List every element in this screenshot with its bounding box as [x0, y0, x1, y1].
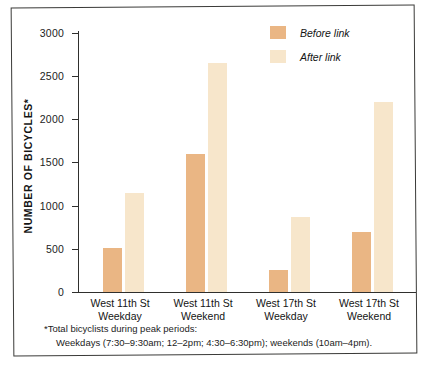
category-label-group-3: West 17th St Weekday — [240, 297, 332, 323]
y-tick-mark-2500 — [72, 76, 79, 77]
legend-label-after: After link — [300, 51, 341, 63]
chart-footnote: *Total bicyclists during peak periods: W… — [44, 322, 372, 349]
category-label-line1: West 11th St — [74, 297, 166, 310]
bar-before-group-4 — [352, 232, 371, 292]
y-tick-label-1500: 1500 — [40, 156, 64, 168]
y-tick-label-2500: 2500 — [40, 70, 64, 82]
y-tick-mark-3000 — [72, 33, 79, 34]
category-label-group-2: West 11th St Weekend — [157, 297, 249, 323]
bar-after-group-3 — [291, 217, 310, 292]
y-tick-mark-0 — [72, 292, 79, 293]
bar-before-group-3 — [269, 270, 288, 292]
y-tick-label-0: 0 — [58, 286, 64, 298]
y-axis-title: NUMBER OF BICYCLES* — [22, 86, 34, 246]
legend-item-after: After link — [270, 50, 350, 63]
y-tick-mark-1000 — [72, 206, 79, 207]
category-label-line1: West 17th St — [323, 297, 415, 310]
plot-area: NUMBER OF BICYCLES* 3000 2500 2000 1500 … — [0, 0, 427, 366]
y-tick-label-3000: 3000 — [40, 27, 64, 39]
bar-after-group-1 — [125, 193, 144, 292]
legend-swatch-before-icon — [270, 26, 286, 39]
y-tick-label-1000: 1000 — [40, 200, 64, 212]
x-axis-line — [78, 292, 416, 293]
category-label-group-4: West 17th St Weekend — [323, 297, 415, 323]
bicycle-counts-chart-figure: NUMBER OF BICYCLES* 3000 2500 2000 1500 … — [0, 0, 427, 366]
legend-swatch-after-icon — [270, 50, 286, 63]
footnote-line-2: Weekdays (7:30–9:30am; 12–2pm; 4:30–6:30… — [44, 336, 372, 350]
y-tick-label-2000: 2000 — [40, 113, 64, 125]
category-label-line1: West 17th St — [240, 297, 332, 310]
footnote-line-1: *Total bicyclists during peak periods: — [44, 322, 372, 336]
bar-after-group-4 — [374, 102, 393, 292]
legend-item-before: Before link — [270, 26, 350, 39]
y-tick-label-500: 500 — [46, 243, 64, 255]
y-tick-mark-2000 — [72, 119, 79, 120]
bar-before-group-1 — [103, 248, 122, 292]
y-tick-mark-1500 — [72, 162, 79, 163]
category-label-line1: West 11th St — [157, 297, 249, 310]
bar-before-group-2 — [186, 154, 205, 292]
y-tick-mark-500 — [72, 249, 79, 250]
bar-after-group-2 — [208, 63, 227, 292]
chart-legend: Before link After link — [270, 26, 350, 74]
category-label-group-1: West 11th St Weekday — [74, 297, 166, 323]
legend-label-before: Before link — [300, 27, 350, 39]
